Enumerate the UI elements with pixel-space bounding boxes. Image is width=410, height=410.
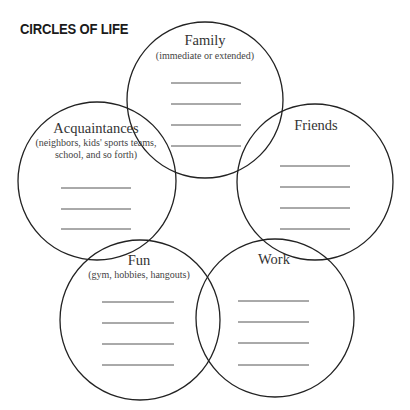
acquaintances-subtitle-line2: school, and so forth): [55, 149, 137, 161]
family-subtitle: (immediate or extended): [156, 50, 254, 62]
acquaintances-label: Acquaintances: [53, 120, 139, 136]
work-label: Work: [258, 251, 291, 267]
friends-label: Friends: [294, 117, 338, 133]
venn-diagram: Family (immediate or extended) Friends A…: [0, 0, 410, 410]
circle-family: Family (immediate or extended): [127, 22, 283, 178]
circle-acquaintances: Acquaintances (neighbors, kids' sports t…: [18, 102, 176, 260]
fun-label: Fun: [128, 252, 151, 268]
fun-subtitle: (gym, hobbies, hangouts): [88, 269, 190, 281]
acquaintances-subtitle-line1: (neighbors, kids' sports teams,: [36, 137, 157, 149]
circle-friends: Friends: [237, 104, 393, 260]
family-label: Family: [184, 32, 226, 48]
